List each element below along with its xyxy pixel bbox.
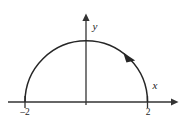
x-axis-arrowhead xyxy=(171,98,179,105)
x-tick-label-minus-2: –2 xyxy=(19,107,30,117)
x-tick-label-2: 2 xyxy=(146,107,151,117)
math-figure: –2 2 x y xyxy=(0,0,183,127)
orientation-arrow-icon xyxy=(123,53,135,63)
x-axis-name-label: x xyxy=(152,79,158,91)
semicircle-plot: –2 2 x y xyxy=(0,0,183,127)
y-axis-arrowhead xyxy=(82,14,89,22)
y-axis-name-label: y xyxy=(92,20,98,32)
